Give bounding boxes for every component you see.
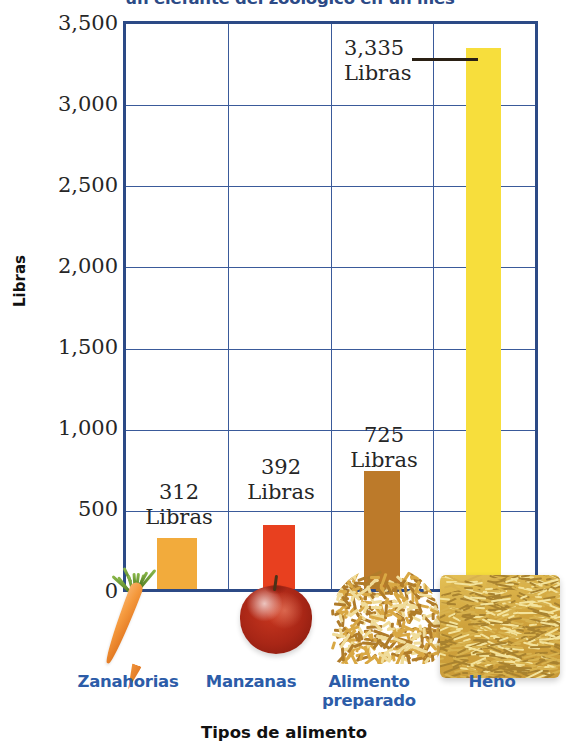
x-category-label: Alimento preparado — [305, 672, 433, 710]
category-separator — [433, 24, 434, 589]
callout-leader-line — [412, 58, 478, 61]
y-tick-label: 500 — [18, 497, 118, 521]
y-tick-label: 1,000 — [18, 416, 118, 440]
apple-image — [238, 572, 318, 668]
bar-value-label: 312 Libras — [131, 480, 227, 530]
y-axis-tick-labels: 05001,0001,5002,0002,5003,0003,500 — [14, 0, 118, 752]
x-axis-title: Tipos de alimento — [0, 723, 568, 742]
y-tick-label: 0 — [18, 579, 118, 603]
y-tick-label: 3,000 — [18, 92, 118, 116]
x-category-label: Manzanas — [186, 672, 316, 691]
y-tick-label: 3,500 — [18, 11, 118, 35]
bar-chart: un elefante del zoológico en un mes Libr… — [0, 0, 568, 752]
prepared-food-pile-image — [330, 568, 440, 664]
bar-value-label: 3,335 Libras — [344, 36, 454, 86]
category-separator — [228, 24, 229, 589]
y-tick-label: 2,000 — [18, 254, 118, 278]
category-separator — [331, 24, 332, 589]
x-category-label: Zanahorias — [58, 672, 198, 691]
bar-value-label: 392 Libras — [233, 455, 329, 505]
y-tick-label: 2,500 — [18, 173, 118, 197]
apple-body-part — [240, 586, 312, 654]
bar-value-label: 725 Libras — [336, 423, 432, 473]
y-tick-label: 1,500 — [18, 335, 118, 359]
bar — [466, 48, 501, 589]
hay-bale-image — [440, 575, 560, 678]
chart-title: un elefante del zoológico en un mes — [60, 0, 520, 8]
x-category-label: Heno — [432, 672, 552, 691]
